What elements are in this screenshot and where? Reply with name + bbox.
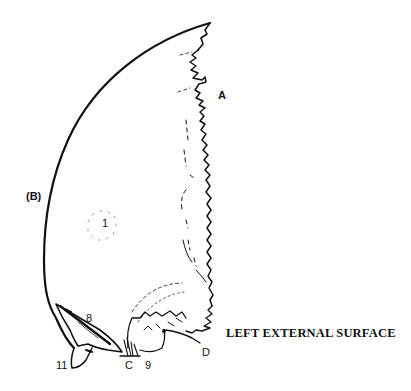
label-9: 9 (145, 360, 151, 371)
bone-diagram: A (B) 1 8 11 C 9 D LEFT EXTERNAL SURFACE (0, 0, 411, 391)
label-B: (B) (26, 191, 41, 202)
label-C: C (125, 360, 133, 371)
label-D: D (202, 347, 210, 358)
label-A: A (218, 90, 226, 101)
suture-edge-A (190, 50, 213, 306)
label-8: 8 (86, 313, 92, 324)
outer-margin-curve (44, 23, 210, 348)
view-caption: LEFT EXTERNAL SURFACE (226, 326, 396, 341)
label-11: 11 (56, 360, 67, 371)
label-1: 1 (102, 218, 108, 229)
